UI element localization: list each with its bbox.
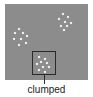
- individual-dot: [14, 32, 16, 34]
- individual-dot: [70, 22, 72, 24]
- individual-dot: [22, 32, 24, 34]
- individual-dot: [25, 42, 27, 44]
- individual-dot: [67, 16, 69, 18]
- leader-line: [44, 75, 45, 84]
- individual-dot: [64, 21, 66, 23]
- highlight-box: [32, 51, 56, 75]
- individual-dot: [62, 13, 64, 15]
- individual-dot: [13, 38, 15, 40]
- individual-dot: [60, 25, 62, 27]
- individual-dot: [26, 35, 28, 37]
- individual-dot: [66, 25, 68, 27]
- individual-dot: [63, 29, 65, 31]
- distribution-label: clumped: [0, 84, 93, 95]
- individual-dot: [20, 38, 22, 40]
- individual-dot: [18, 44, 20, 46]
- individual-dot: [18, 28, 20, 30]
- individual-dot: [58, 18, 60, 20]
